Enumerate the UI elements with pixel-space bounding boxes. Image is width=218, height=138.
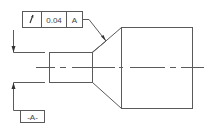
datum-reference: A <box>72 16 78 25</box>
technical-drawing: 0.04 A -A- <box>0 0 218 138</box>
leader-line <box>83 20 107 53</box>
arrowhead-icon <box>12 83 16 90</box>
runout-symbol-icon <box>30 15 34 23</box>
datum-label: -A- <box>27 113 38 122</box>
tolerance-value: 0.04 <box>46 16 62 25</box>
datum-label-box: -A- <box>21 111 45 123</box>
arrowhead-icon <box>12 46 16 53</box>
feature-control-frame: 0.04 A <box>23 12 83 28</box>
datum-dimension <box>12 30 46 111</box>
